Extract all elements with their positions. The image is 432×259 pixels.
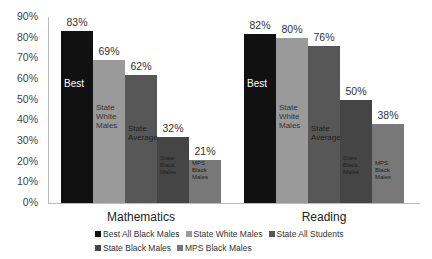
y-tick-label: 0% <box>0 196 38 208</box>
category-label-mathematics: Mathematics <box>81 210 201 224</box>
data-label: 38% <box>368 109 408 121</box>
data-label: 83% <box>57 16 97 28</box>
data-label: 69% <box>89 45 129 57</box>
data-label: 76% <box>304 31 344 43</box>
y-tick-label: 50% <box>0 93 38 105</box>
bar-state-all-students: State Average <box>308 46 340 203</box>
bar-inner-label: Best <box>64 78 92 90</box>
data-label: 21% <box>185 145 225 157</box>
y-axis-line <box>48 17 49 203</box>
legend-label: State Black Males <box>103 243 171 253</box>
category-label-reading: Reading <box>264 210 384 224</box>
bar-inner-label: MPS Black Males <box>192 160 220 181</box>
bar-state-white-males: State White Males <box>276 38 308 203</box>
y-tick-label: 90% <box>0 10 38 22</box>
legend-swatch-icon <box>95 245 101 251</box>
y-tick-label: 60% <box>0 72 38 84</box>
data-label: 62% <box>121 60 161 72</box>
bar-inner-label: State Average <box>311 124 339 142</box>
y-tick-label: 10% <box>0 175 38 187</box>
bar-mps-black-males: MPS Black Males <box>189 160 221 203</box>
legend-label: MPS Black Males <box>185 243 252 253</box>
data-label: 32% <box>153 122 193 134</box>
y-tick-label: 30% <box>0 134 38 146</box>
legend-item: MPS Black Males <box>177 243 252 253</box>
legend-row: State Black MalesMPS Black Males <box>95 243 252 253</box>
bar-state-all-students: State Average <box>125 75 157 203</box>
legend-swatch-icon <box>269 231 275 237</box>
bar-best-all-black-males: Best <box>244 34 276 203</box>
bar-inner-label: State White Males <box>279 103 307 131</box>
legend-swatch-icon <box>95 231 101 237</box>
legend-item: Best All Black Males <box>95 229 180 239</box>
bar-mps-black-males: MPS Black Males <box>372 124 404 203</box>
legend-swatch-icon <box>186 231 192 237</box>
bar-inner-label: Best <box>247 78 275 90</box>
y-tick-label: 20% <box>0 155 38 167</box>
bar-inner-label: State Black Males <box>343 155 371 176</box>
y-tick-label: 80% <box>0 31 38 43</box>
bar-inner-label: State Black Males <box>160 155 188 176</box>
legend-label: Best All Black Males <box>103 229 180 239</box>
legend-label: State White Males <box>194 229 263 239</box>
legend-item: State Black Males <box>95 243 171 253</box>
legend-swatch-icon <box>177 245 183 251</box>
x-axis-line <box>48 203 420 204</box>
bar-inner-label: State Average <box>128 124 156 142</box>
y-tick-label: 70% <box>0 51 38 63</box>
legend-label: State All Students <box>277 229 344 239</box>
legend-item: State White Males <box>186 229 263 239</box>
bar-inner-label: MPS Black Males <box>375 160 403 181</box>
legend-row: Best All Black MalesState White MalesSta… <box>95 229 344 239</box>
y-tick-label: 40% <box>0 113 38 125</box>
bar-state-white-males: State White Males <box>93 60 125 203</box>
bar-inner-label: State White Males <box>96 103 124 131</box>
data-label: 50% <box>336 85 376 97</box>
legend-item: State All Students <box>269 229 344 239</box>
